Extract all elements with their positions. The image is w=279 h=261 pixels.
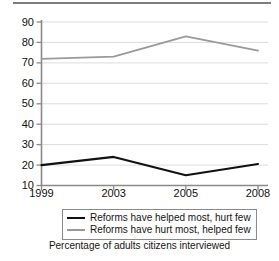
y-tick-label: 90 [12, 17, 34, 28]
figure-root: 102030405060708090 1999200320052008 Refo… [0, 0, 279, 261]
legend-item-helped-most: Reforms have helped most, hurt few [67, 212, 251, 224]
legend-item-label: Reforms have helped most, hurt few [90, 212, 251, 224]
data-series-group [42, 36, 259, 175]
series-line [42, 36, 259, 59]
x-tick-label: 2008 [236, 188, 279, 199]
y-tick-label: 70 [12, 57, 34, 68]
x-tick-label: 2003 [92, 188, 136, 199]
line-chart-svg [0, 14, 279, 200]
plot-area [0, 14, 279, 200]
figure-caption: Percentage of adults citizens interviewe… [0, 240, 279, 252]
y-tick-label: 20 [12, 160, 34, 171]
y-tick-label: 60 [12, 78, 34, 89]
x-axis-tick-labels: 1999200320052008 [0, 188, 279, 204]
legend-line-swatch-icon [67, 217, 85, 219]
y-axis-tick-labels: 102030405060708090 [10, 14, 34, 186]
top-rule-divider [13, 2, 271, 4]
series-line [42, 157, 259, 175]
legend-line-swatch-icon [67, 229, 85, 231]
y-tick-label: 30 [12, 139, 34, 150]
y-tick-label: 80 [12, 37, 34, 48]
chart-legend: Reforms have helped most, hurt few Refor… [62, 209, 257, 240]
x-tick-label: 1999 [20, 188, 64, 199]
legend-item-label: Reforms have hurt most, helped few [90, 224, 251, 236]
y-tick-label: 50 [12, 98, 34, 109]
x-tick-label: 2005 [164, 188, 208, 199]
y-tick-label: 40 [12, 119, 34, 130]
legend-item-hurt-most: Reforms have hurt most, helped few [67, 224, 251, 236]
